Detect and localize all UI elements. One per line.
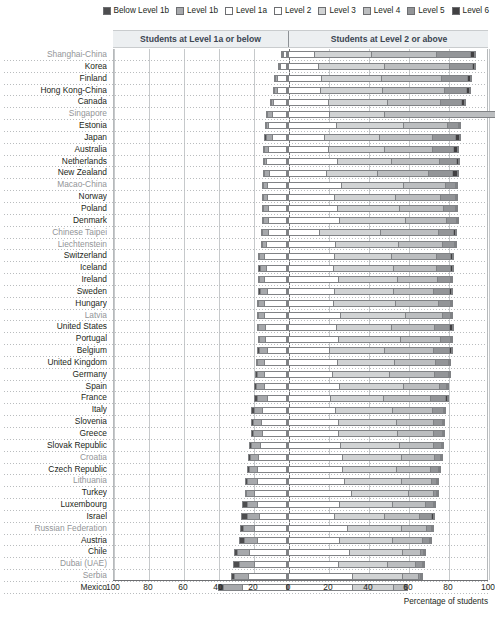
band-header: Students at Level 1a or below Students a…: [113, 30, 488, 48]
country-label: Spain: [0, 381, 107, 393]
bar-container: [113, 475, 488, 487]
bar-container: [113, 381, 488, 393]
seg-level-5: [441, 195, 456, 200]
bar-container: [113, 487, 488, 499]
seg-level-6: [454, 230, 456, 235]
seg-level-4: [400, 443, 434, 448]
bar-left: [257, 347, 288, 354]
seg-level-3: [339, 562, 388, 567]
seg-level-4: [385, 514, 420, 519]
bar-container: [113, 511, 488, 523]
chart-row: United Kingdom: [0, 357, 495, 369]
bar-left: [262, 194, 288, 201]
country-label: Lithuania: [0, 475, 107, 487]
x-tick-label: 100: [481, 582, 495, 593]
seg-level-1a: [269, 147, 287, 152]
seg-level-4: [402, 455, 434, 460]
seg-level-2: [289, 479, 345, 484]
bar-left: [234, 549, 288, 556]
seg-level-4: [392, 325, 434, 330]
bar-right: [288, 501, 436, 508]
legend-swatch-icon: [318, 7, 326, 15]
seg-level-4: [384, 396, 431, 401]
country-label: Japan: [0, 132, 107, 144]
bar-container: [113, 558, 488, 570]
seg-level-4: [381, 230, 439, 235]
bar-right: [288, 359, 451, 366]
bar-left: [262, 217, 288, 224]
bar-container: [113, 167, 488, 179]
seg-level-4: [382, 76, 443, 81]
seg-level-6: [451, 337, 452, 342]
seg-level-1a: [258, 479, 287, 484]
bar-container: [113, 440, 488, 452]
seg-level-4: [383, 88, 445, 93]
seg-level-6: [424, 550, 425, 555]
seg-level-3: [330, 112, 385, 117]
seg-level-3: [322, 76, 382, 81]
seg-level-4: [406, 313, 443, 318]
seg-level-1a: [268, 348, 287, 353]
bar-right: [288, 51, 476, 58]
legend-item-5: Level 3: [318, 6, 355, 15]
seg-level-1b: [254, 420, 262, 425]
bar-left: [281, 51, 288, 58]
chart-row: Poland: [0, 203, 495, 215]
seg-level-3: [338, 159, 393, 164]
x-tick-label: 20: [248, 582, 257, 593]
bar-left: [251, 407, 288, 414]
seg-level-4: [380, 135, 433, 140]
bar-left: [245, 478, 288, 485]
seg-level-1a: [261, 443, 287, 448]
seg-level-6: [457, 159, 459, 164]
seg-level-6: [451, 313, 452, 318]
seg-level-6: [430, 538, 431, 543]
country-label: Chile: [0, 546, 107, 558]
bar-right: [288, 490, 439, 497]
seg-level-4: [394, 266, 437, 271]
seg-level-4: [385, 64, 450, 69]
seg-level-5: [442, 76, 468, 81]
seg-level-1a: [269, 123, 287, 128]
seg-level-1a: [255, 491, 287, 496]
chart-row: Turkey: [0, 487, 495, 499]
seg-level-6: [468, 76, 471, 81]
seg-level-5: [431, 396, 446, 401]
bar-left: [261, 229, 288, 236]
seg-level-2: [289, 52, 315, 57]
bar-container: [113, 108, 488, 120]
seg-level-1a: [268, 396, 287, 401]
seg-level-2: [289, 455, 343, 460]
x-axis-ticks: 10080604020020406080100: [0, 582, 495, 594]
chart-row: Slovak Republic: [0, 440, 495, 452]
seg-level-6: [455, 242, 456, 247]
seg-level-3: [329, 147, 385, 152]
seg-level-3: [337, 123, 404, 128]
bar-left: [241, 513, 288, 520]
chart-row: Luxembourg: [0, 499, 495, 511]
bar-right: [288, 430, 445, 437]
seg-level-5: [439, 301, 451, 306]
bar-right: [288, 549, 426, 556]
bar-right: [288, 407, 446, 414]
seg-level-4: [388, 100, 441, 105]
seg-level-6: [451, 254, 453, 259]
seg-level-4: [402, 526, 427, 531]
seg-level-4: [402, 479, 432, 484]
seg-level-3: [321, 88, 383, 93]
bar-left: [263, 170, 288, 177]
bar-left: [231, 573, 288, 580]
bar-right: [288, 513, 435, 520]
seg-level-4: [409, 491, 434, 496]
seg-level-5: [439, 230, 454, 235]
bar-container: [113, 96, 488, 108]
chart-page: Below Level 1bLevel 1bLevel 1aLevel 2Lev…: [0, 0, 495, 619]
band-right-label: Students at Level 2 or above: [288, 31, 489, 47]
seg-level-2: [289, 562, 339, 567]
country-label: Netherlands: [0, 156, 107, 168]
bar-right: [288, 312, 453, 319]
seg-level-6: [451, 301, 452, 306]
seg-level-1a: [267, 266, 287, 271]
seg-level-3: [352, 491, 409, 496]
bar-right: [288, 253, 454, 260]
